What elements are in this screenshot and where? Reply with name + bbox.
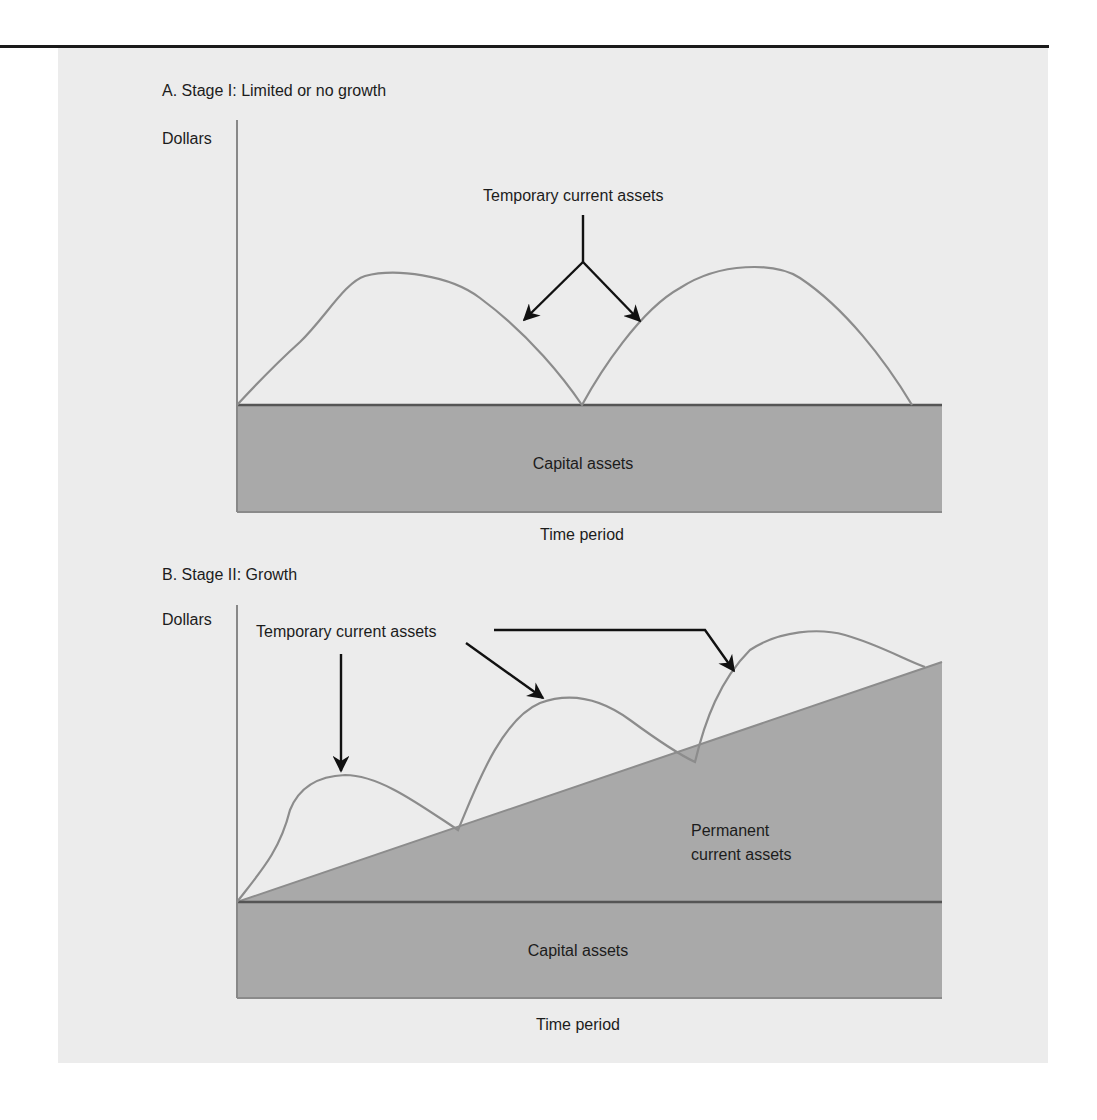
panel-b-title: B. Stage II: Growth bbox=[162, 566, 297, 583]
panel-a: A. Stage I: Limited or no growth Dollars… bbox=[162, 82, 942, 543]
panel-a-arrow-left-icon bbox=[524, 262, 583, 320]
panel-b-permanent-label-line2: current assets bbox=[691, 846, 791, 863]
panel-a-temporary-current-assets-curve bbox=[237, 267, 912, 405]
panel-b-arrow-diagonal-icon bbox=[466, 643, 543, 698]
panel-a-capital-assets-label: Capital assets bbox=[533, 455, 634, 472]
panel-a-arrow-right-icon bbox=[583, 262, 640, 321]
panel-a-x-axis-label: Time period bbox=[540, 526, 624, 543]
panel-b-capital-assets-label: Capital assets bbox=[528, 942, 629, 959]
panel-b-y-axis-label: Dollars bbox=[162, 611, 212, 628]
panel-a-y-axis-label: Dollars bbox=[162, 130, 212, 147]
panel-a-title: A. Stage I: Limited or no growth bbox=[162, 82, 386, 99]
panel-b-annotation-label: Temporary current assets bbox=[256, 623, 437, 640]
panel-b-arrow-elbow-icon bbox=[494, 630, 734, 671]
panel-b-x-axis-label: Time period bbox=[536, 1016, 620, 1033]
panel-b: B. Stage II: Growth Dollars Temporary cu… bbox=[162, 566, 942, 1033]
figure-svg: A. Stage I: Limited or no growth Dollars… bbox=[0, 0, 1097, 1120]
panel-b-permanent-label-line1: Permanent bbox=[691, 822, 770, 839]
panel-a-annotation-label: Temporary current assets bbox=[483, 187, 664, 204]
